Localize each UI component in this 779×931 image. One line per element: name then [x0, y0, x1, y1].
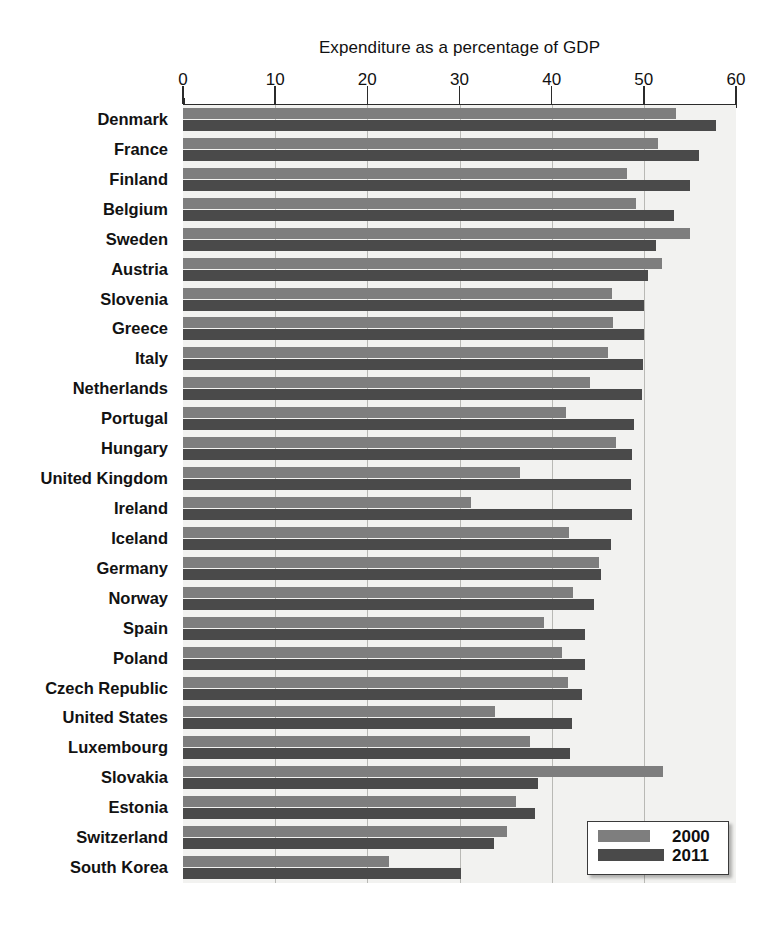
- bar-2000: [183, 736, 530, 747]
- bar-2011: [183, 599, 594, 610]
- bar-2000: [183, 856, 389, 867]
- x-tick-mark-60: [735, 86, 737, 104]
- bar-2011: [183, 449, 632, 460]
- category-label: United States: [63, 708, 168, 726]
- category-label: Hungary: [101, 439, 168, 457]
- bar-2011: [183, 120, 716, 131]
- x-tick-mark-40: [551, 86, 553, 104]
- bar-group-row: [183, 225, 736, 255]
- bar-group-row: [183, 285, 736, 315]
- category-label: Norway: [108, 589, 168, 607]
- bar-group-row: [183, 135, 736, 165]
- bar-2011: [183, 240, 656, 251]
- bar-2000: [183, 347, 608, 358]
- category-label: United Kingdom: [41, 469, 168, 487]
- bar-2000: [183, 706, 495, 717]
- bar-2011: [183, 539, 611, 550]
- bar-2011: [183, 689, 582, 700]
- bar-2000: [183, 497, 471, 508]
- bar-group-row: [183, 255, 736, 285]
- bar-group-row: [183, 464, 736, 494]
- bar-2011: [183, 270, 648, 281]
- bar-group-row: [183, 584, 736, 614]
- bar-group-row: [183, 374, 736, 404]
- bar-2000: [183, 557, 599, 568]
- bar-2000: [183, 377, 590, 388]
- bar-2000: [183, 317, 613, 328]
- bar-2000: [183, 138, 658, 149]
- bar-2011: [183, 389, 642, 400]
- bar-2011: [183, 718, 572, 729]
- category-label: Czech Republic: [45, 679, 168, 697]
- category-label: Slovenia: [100, 290, 168, 308]
- category-label: Switzerland: [76, 828, 168, 846]
- bar-2011: [183, 419, 634, 430]
- bar-2011: [183, 838, 494, 849]
- chart-page: Expenditure as a percentage of GDP 01020…: [0, 0, 779, 931]
- category-label: Slovakia: [101, 768, 168, 786]
- bar-2000: [183, 587, 573, 598]
- x-axis-tick-labels: 0102030405060: [0, 70, 779, 92]
- bar-2000: [183, 108, 676, 119]
- category-label: Estonia: [108, 798, 168, 816]
- bar-2011: [183, 868, 461, 879]
- category-label: Poland: [113, 649, 168, 667]
- category-label: Germany: [96, 559, 168, 577]
- bar-2011: [183, 808, 535, 819]
- bar-2000: [183, 258, 662, 269]
- bar-2000: [183, 288, 612, 299]
- bar-group-row: [183, 763, 736, 793]
- bar-2011: [183, 300, 644, 311]
- category-label: Luxembourg: [68, 738, 168, 756]
- bar-group-row: [183, 614, 736, 644]
- bar-group-row: [183, 554, 736, 584]
- category-label: Denmark: [97, 110, 168, 128]
- bar-2011: [183, 359, 643, 370]
- bar-group-row: [183, 434, 736, 464]
- bar-2000: [183, 677, 568, 688]
- bar-2011: [183, 778, 538, 789]
- x-tick-mark-30: [459, 86, 461, 104]
- bar-2000: [183, 766, 663, 777]
- category-label: France: [114, 140, 168, 158]
- plot-area: [183, 104, 736, 883]
- category-label: Italy: [135, 349, 168, 367]
- legend-label-2000: 2000: [672, 827, 710, 847]
- bar-2011: [183, 629, 585, 640]
- category-label: South Korea: [70, 858, 168, 876]
- x-tick-mark-10: [274, 86, 276, 104]
- x-tick-mark-20: [367, 86, 369, 104]
- bar-group-row: [183, 195, 736, 225]
- bar-2011: [183, 210, 674, 221]
- x-axis-title: Expenditure as a percentage of GDP: [183, 38, 736, 58]
- bar-2000: [183, 407, 566, 418]
- bar-group-row: [183, 793, 736, 823]
- legend-swatch-2011: [598, 849, 664, 861]
- category-label: Ireland: [114, 499, 168, 517]
- bar-2000: [183, 198, 636, 209]
- category-label: Belgium: [103, 200, 168, 218]
- bar-group-row: [183, 105, 736, 135]
- category-label: Portugal: [101, 409, 168, 427]
- bar-group-row: [183, 524, 736, 554]
- category-label: Sweden: [106, 230, 168, 248]
- x-tick-mark-0: [182, 86, 184, 104]
- category-label: Spain: [123, 619, 168, 637]
- bar-2011: [183, 329, 644, 340]
- bar-2011: [183, 180, 690, 191]
- legend-label-2011: 2011: [672, 846, 709, 866]
- bar-2011: [183, 150, 699, 161]
- category-label: Netherlands: [73, 379, 168, 397]
- bar-2000: [183, 527, 569, 538]
- bar-2011: [183, 509, 632, 520]
- bar-group-row: [183, 703, 736, 733]
- bar-2000: [183, 826, 507, 837]
- bar-2011: [183, 748, 570, 759]
- bar-group-row: [183, 165, 736, 195]
- bar-group-row: [183, 733, 736, 763]
- category-label: Greece: [112, 319, 168, 337]
- bar-2000: [183, 647, 562, 658]
- category-label: Austria: [111, 260, 168, 278]
- legend-swatch-2000: [598, 830, 650, 842]
- category-label: Finland: [109, 170, 168, 188]
